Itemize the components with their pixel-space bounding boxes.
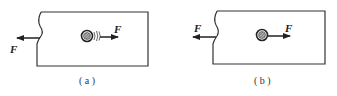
left-force-label-a: F [9, 43, 18, 55]
caption-b: ( b ) [254, 75, 271, 87]
wire-cross-section-b [257, 30, 268, 41]
plate-outline-b [213, 11, 325, 64]
wire-cross-section-a [82, 31, 101, 42]
panel-a: F F ( a ) [9, 12, 148, 87]
right-force-label-b: F [284, 22, 293, 34]
panel-b: F F ( b ) [193, 11, 325, 87]
right-force-label-a: F [113, 23, 122, 35]
left-force-label-b: F [193, 22, 202, 34]
caption-a: ( a ) [79, 75, 95, 87]
figure-canvas: F F ( a ) F F ( b ) [0, 0, 337, 96]
